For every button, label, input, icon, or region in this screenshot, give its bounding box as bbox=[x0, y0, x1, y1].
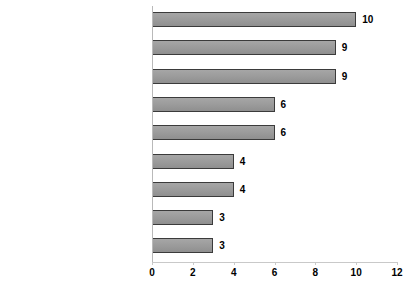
bar-row: Moving from community3 bbox=[152, 204, 397, 232]
x-tick-label: 2 bbox=[190, 267, 196, 278]
y-axis-line bbox=[152, 6, 153, 262]
bar bbox=[152, 210, 213, 225]
x-axis-ticks: 024681012 bbox=[152, 262, 397, 284]
x-tick-mark bbox=[397, 262, 398, 265]
x-tick-label: 10 bbox=[351, 267, 362, 278]
x-tick-label: 4 bbox=[231, 267, 237, 278]
bar-value-label: 3 bbox=[219, 208, 225, 227]
x-tick-label: 0 bbox=[149, 267, 155, 278]
bar-value-label: 9 bbox=[342, 38, 348, 57]
plot-area: Exclusiveness of Christianity10Hypocrisy… bbox=[152, 6, 397, 261]
bar-row: Unanswered questions4 bbox=[152, 148, 397, 176]
bar-row: Ethical disgreements9 bbox=[152, 63, 397, 91]
bar-value-label: 4 bbox=[240, 152, 246, 171]
bar-value-label: 10 bbox=[362, 10, 373, 29]
x-tick-label: 12 bbox=[391, 267, 402, 278]
bar bbox=[152, 182, 234, 197]
x-tick-label: 6 bbox=[272, 267, 278, 278]
bar-value-label: 3 bbox=[219, 236, 225, 255]
bar bbox=[152, 40, 336, 55]
bar bbox=[152, 154, 234, 169]
bar-row: Hypocrisy of Christians9 bbox=[152, 34, 397, 62]
bar-row: Unsatisfactory answers6 bbox=[152, 119, 397, 147]
x-tick-label: 8 bbox=[313, 267, 319, 278]
bar-row: Unreal relationship with God3 bbox=[152, 232, 397, 260]
bar-rows: Exclusiveness of Christianity10Hypocrisy… bbox=[152, 6, 397, 261]
bar-row: Lifestyle choices6 bbox=[152, 91, 397, 119]
bar-row: Exclusiveness of Christianity10 bbox=[152, 6, 397, 34]
bar bbox=[152, 12, 356, 27]
bar-value-label: 9 bbox=[342, 67, 348, 86]
bar bbox=[152, 125, 275, 140]
bar-value-label: 6 bbox=[281, 123, 287, 142]
bar bbox=[152, 69, 336, 84]
bar bbox=[152, 238, 213, 253]
bar bbox=[152, 97, 275, 112]
x-axis-line bbox=[152, 262, 397, 263]
bar-value-label: 6 bbox=[281, 95, 287, 114]
bar-chart: Exclusiveness of Christianity10Hypocrisy… bbox=[0, 0, 409, 287]
bar-value-label: 4 bbox=[240, 180, 246, 199]
bar-row: Negative role models4 bbox=[152, 176, 397, 204]
